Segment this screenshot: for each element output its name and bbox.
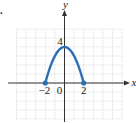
origin-label: 0 [57, 84, 63, 96]
x-tick-label: −2 [38, 84, 50, 96]
grid [17, 29, 123, 119]
y-axis-arrow-icon [62, 10, 67, 16]
x-axis-arrow-icon [124, 81, 130, 86]
x-tick-label: 2 [81, 84, 87, 96]
tick-labels: −2024xy [38, 0, 136, 96]
y-tick-label: 4 [57, 35, 63, 47]
x-axis-label: x [131, 76, 136, 88]
parabola-graph: −2024xy [0, 0, 136, 123]
y-axis-label: y [62, 0, 68, 10]
